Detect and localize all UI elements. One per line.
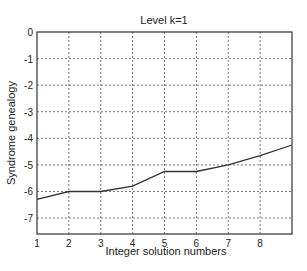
line-chart: Level k=1 12345678 0-1-2-3-4-5-6-7 Integ… bbox=[0, 0, 307, 271]
y-tick-label: 0 bbox=[27, 27, 33, 38]
y-tick-labels: 0-1-2-3-4-5-6-7 bbox=[24, 27, 33, 224]
y-tick-label: -3 bbox=[24, 107, 33, 118]
y-tick-label: -1 bbox=[24, 54, 33, 65]
y-tick-label: -5 bbox=[24, 160, 33, 171]
y-axis-label: Syndrome genealogy bbox=[5, 81, 17, 185]
y-tick-label: -6 bbox=[24, 186, 33, 197]
chart-title: Level k=1 bbox=[140, 14, 187, 26]
y-tick-label: -2 bbox=[24, 80, 33, 91]
grid-lines bbox=[37, 32, 292, 234]
x-tick-label: 1 bbox=[34, 238, 40, 249]
x-tick-label: 8 bbox=[257, 238, 263, 249]
y-tick-label: -7 bbox=[24, 213, 33, 224]
x-tick-label: 3 bbox=[98, 238, 104, 249]
y-tick-label: -4 bbox=[24, 133, 33, 144]
x-axis-label: Integer solution numbers bbox=[105, 245, 227, 257]
x-tick-label: 2 bbox=[66, 238, 72, 249]
